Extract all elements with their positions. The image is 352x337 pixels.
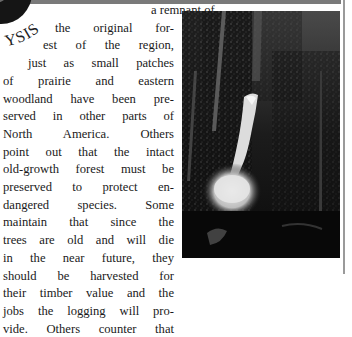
article-line: just as small patches: [28, 55, 174, 73]
article-line: old-growth forest must be: [3, 161, 174, 179]
article-line: served in other parts of: [3, 108, 174, 126]
article-line: their timber value and the: [3, 285, 174, 303]
article-line: a remnant of: [151, 2, 174, 20]
article-line: in the near future, they: [3, 250, 174, 268]
article-line: dangered species. Some: [3, 197, 174, 215]
article-line: preserved to protect en-: [3, 179, 174, 197]
article-body: a remnant ofthe original for-est of the …: [3, 2, 174, 337]
article-line: should be harvested for: [3, 268, 174, 286]
article-line: North America. Others: [3, 126, 174, 144]
article-line: est of the region,: [43, 37, 174, 55]
article-line: maintain that since the: [3, 214, 174, 232]
article-line: jobs the logging will pro-: [3, 303, 174, 321]
article-line: woodland have been pre-: [3, 91, 174, 109]
article-line: of prairie and eastern: [3, 73, 174, 91]
article-line: the original for-: [55, 20, 174, 38]
article-line: trees are old and will die: [3, 232, 174, 250]
article-line: point out that the intact: [3, 144, 174, 162]
article-line: vide. Others counter that: [3, 321, 174, 337]
page-edge-rule: [343, 0, 345, 274]
waterfall-photo: [182, 11, 340, 258]
